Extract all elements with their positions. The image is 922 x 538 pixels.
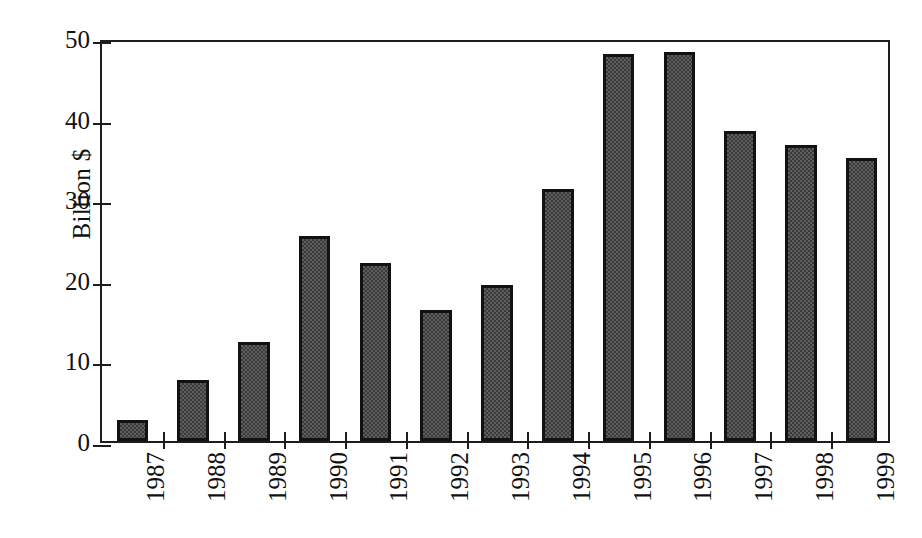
bar-chart: Billion $ 01020304050 198719881989199019… (0, 0, 922, 538)
x-axis-tick-mark (588, 432, 590, 449)
bar (360, 263, 392, 441)
plot-area (100, 40, 890, 443)
x-axis-tick-label: 1996 (690, 452, 716, 538)
bars-group (102, 42, 888, 441)
x-axis-tick-mark (770, 432, 772, 449)
x-axis-tick-mark (345, 432, 347, 449)
x-axis-tick-mark (224, 432, 226, 449)
x-axis-tick-label: 1998 (812, 452, 838, 538)
bar (603, 54, 635, 441)
bar (724, 131, 756, 441)
y-axis-tick-label: 50 (26, 27, 90, 52)
bar (420, 310, 452, 441)
x-axis-tick-label: 1990 (326, 452, 352, 538)
x-axis-tick-label: 1992 (447, 452, 473, 538)
y-axis-tick-label: 20 (26, 269, 90, 294)
bar (481, 285, 513, 441)
x-axis-tick-mark (831, 432, 833, 449)
y-axis-tick-label: 40 (26, 108, 90, 133)
y-axis-tick-label: 0 (26, 430, 90, 455)
x-axis-tick-label: 1987 (143, 452, 169, 538)
bar (542, 189, 574, 441)
y-axis-tick-mark (93, 445, 111, 447)
bar (177, 380, 209, 441)
bar (299, 236, 331, 441)
bar (664, 52, 696, 441)
bar (846, 158, 878, 441)
x-axis-tick-label: 1997 (751, 452, 777, 538)
x-axis-tick-mark (649, 432, 651, 449)
x-axis-tick-label: 1988 (204, 452, 230, 538)
x-axis-tick-mark (710, 432, 712, 449)
x-axis-tick-mark (406, 432, 408, 449)
x-axis-tick-label: 1995 (630, 452, 656, 538)
x-axis-tick-mark (467, 432, 469, 449)
x-axis-tick-label: 1989 (265, 452, 291, 538)
x-axis-tick-label: 1991 (386, 452, 412, 538)
y-axis-tick-labels: 01020304050 (10, 0, 90, 538)
x-axis-tick-label: 1994 (569, 452, 595, 538)
y-axis-tick-label: 30 (26, 188, 90, 213)
x-axis-tick-label: 1993 (508, 452, 534, 538)
bar (117, 420, 149, 441)
x-axis-tick-mark (527, 432, 529, 449)
bar (238, 342, 270, 441)
x-axis-tick-labels: 1987198819891990199119921993199419951996… (100, 452, 890, 538)
x-axis-tick-label: 1999 (873, 452, 899, 538)
bar (785, 145, 817, 441)
x-axis-tick-mark (284, 432, 286, 449)
y-axis-tick-label: 10 (26, 349, 90, 374)
x-axis-tick-mark (163, 432, 165, 449)
